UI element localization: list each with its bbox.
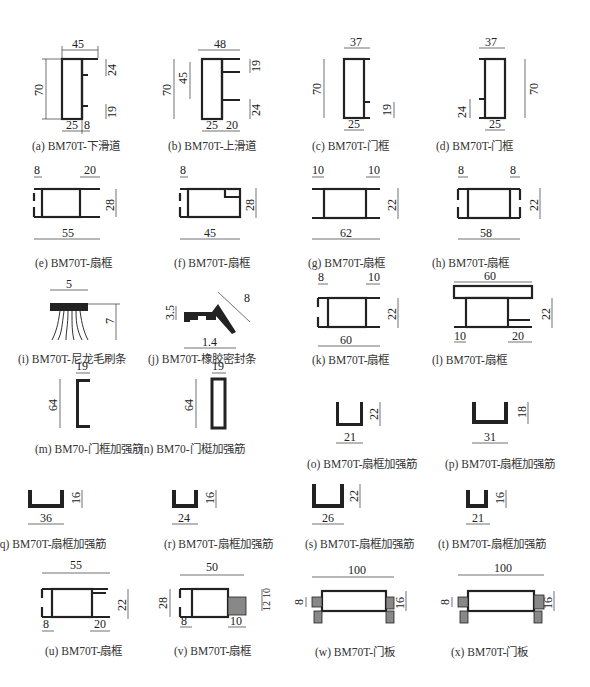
profile-e-drawing: 8 20 28 55 [0, 155, 150, 265]
profile-a-drawing: 45 70 24 19 258 [0, 0, 150, 160]
caption-b: (b) BM70T-上滑道 [168, 137, 256, 153]
caption-t: (t) BM70T-扇框加强筋 [438, 535, 546, 551]
profile-m-drawing: 19 64 [0, 365, 150, 475]
profile-d-drawing: 37 70 24 25 [440, 0, 590, 160]
svg-text:55: 55 [70, 558, 82, 572]
svg-text:20: 20 [512, 329, 524, 343]
profile-g-drawing: 10 10 22 62 [290, 155, 440, 265]
svg-text:25: 25 [348, 117, 360, 131]
svg-text:8: 8 [244, 291, 250, 305]
caption-w: (w) BM70T-门板 [315, 643, 395, 659]
svg-text:100: 100 [494, 561, 512, 575]
caption-x: (x) BM70T-门板 [451, 643, 528, 659]
svg-text:19: 19 [380, 104, 394, 116]
caption-a: (a) BM70T-下滑道 [32, 137, 120, 153]
svg-text:22: 22 [347, 490, 361, 502]
svg-text:12: 12 [261, 601, 272, 611]
svg-text:70: 70 [527, 83, 541, 95]
svg-text:8: 8 [43, 617, 49, 631]
figure-d: 37 70 24 25 (d) BM70T-门框 [440, 0, 590, 160]
svg-text:8: 8 [181, 614, 187, 628]
caption-v: (v) BM70T-扇框 [174, 642, 251, 658]
figure-a: 45 70 24 19 258 (a) BM70T-下滑道 [0, 0, 150, 160]
svg-text:70: 70 [32, 84, 46, 96]
caption-e: (e) BM70T-扇框 [35, 254, 112, 270]
svg-text:8: 8 [84, 118, 90, 132]
svg-text:60: 60 [484, 269, 496, 283]
figure-e: 8 20 28 55 (e) BM70T-扇框 [0, 155, 150, 265]
svg-text:45: 45 [204, 226, 216, 240]
caption-i: (i) BM70T-尼龙毛刷条 [18, 350, 126, 366]
figure-g: 10 10 22 62 (g) BM70T-扇框 [290, 155, 440, 265]
svg-text:16: 16 [203, 492, 217, 504]
svg-text:10: 10 [368, 270, 380, 284]
svg-text:70: 70 [310, 83, 324, 95]
svg-text:8: 8 [510, 163, 516, 177]
svg-text:1.4: 1.4 [202, 335, 217, 349]
svg-text:25: 25 [66, 118, 78, 132]
figure-i: 5 7 (i) BM70T-尼龙毛刷条 [0, 270, 150, 370]
profile-v-drawing: 50 28 10 12 8 10 [150, 565, 300, 687]
figure-w: 100 8 16 (w) BM70T-门板 [290, 565, 440, 687]
svg-text:28: 28 [156, 597, 170, 609]
svg-text:31: 31 [484, 430, 496, 444]
caption-r: (r) BM70T-扇框加强筋 [164, 535, 273, 551]
svg-text:19: 19 [76, 359, 88, 373]
svg-text:24: 24 [455, 106, 469, 118]
svg-text:36: 36 [40, 511, 52, 525]
figure-v: 50 28 10 12 8 10 (v) BM70T-扇框 [150, 565, 300, 687]
svg-text:60: 60 [340, 333, 352, 347]
figure-k: 8 10 22 60 (k) BM70T-扇框 [290, 270, 440, 370]
svg-text:8: 8 [34, 163, 40, 177]
svg-text:22: 22 [385, 199, 399, 211]
caption-n: (n) BM70-门梃加强筋 [140, 440, 245, 456]
caption-s: (s) BM70T-扇框加强筋 [305, 535, 414, 551]
svg-text:20: 20 [226, 118, 238, 132]
svg-text:100: 100 [348, 563, 366, 577]
figure-o: 22 21 (o) BM70T-扇框加强筋 [290, 380, 440, 480]
caption-p: (p) BM70T-扇框加强筋 [445, 455, 555, 471]
svg-text:37: 37 [485, 35, 497, 49]
svg-text:37: 37 [350, 35, 362, 49]
caption-h: (h) BM70T-扇框 [432, 254, 509, 270]
svg-text:45: 45 [176, 72, 190, 84]
caption-u: (u) BM70T-扇框 [45, 642, 122, 658]
svg-text:8: 8 [292, 599, 306, 605]
svg-text:22: 22 [115, 599, 129, 611]
svg-text:21: 21 [472, 511, 484, 525]
figure-h: 8 8 22 58 (h) BM70T-扇框 [440, 155, 590, 265]
caption-q: (q) BM70T-扇框加强筋 [0, 535, 106, 551]
svg-text:21: 21 [344, 430, 356, 444]
figure-p: 18 31 (p) BM70T-扇框加强筋 [440, 380, 590, 480]
profile-b-drawing: 48 70 45 19 24 2520 [150, 0, 300, 160]
svg-text:70: 70 [160, 84, 174, 96]
profile-x-drawing: 100 8 16 [440, 565, 590, 687]
svg-text:20: 20 [84, 163, 96, 177]
svg-text:16: 16 [493, 492, 507, 504]
svg-text:22: 22 [367, 408, 381, 420]
svg-text:3.5: 3.5 [163, 305, 177, 320]
figure-b: 48 70 45 19 24 2520 (b) BM70T-上滑道 [150, 0, 300, 160]
caption-m: (m) BM70-门框加强筋 [35, 440, 143, 456]
profile-f-drawing: 8 28 45 [150, 155, 300, 265]
svg-text:48: 48 [214, 37, 226, 51]
profile-n-drawing: 19 64 [150, 365, 300, 475]
svg-text:58: 58 [480, 226, 492, 240]
svg-text:10: 10 [454, 329, 466, 343]
profile-u-drawing: 55 22 8 20 [0, 565, 150, 687]
svg-text:25: 25 [489, 117, 501, 131]
svg-text:55: 55 [62, 226, 74, 240]
svg-text:24: 24 [249, 104, 263, 116]
figure-j: 3.5 8 1.4 (j) BM70T-橡胶密封条 [150, 270, 300, 370]
caption-k: (k) BM70T-扇框 [312, 351, 389, 367]
svg-text:8: 8 [318, 270, 324, 284]
svg-text:22: 22 [527, 199, 541, 211]
svg-text:28: 28 [103, 199, 117, 211]
figure-f: 8 28 45 (f) BM70T-扇框 [150, 155, 300, 265]
figure-c: 37 70 19 25 (c) BM70T-门框 [290, 0, 440, 160]
figure-l: 60 22 10 20 (l) BM70T-扇框 [440, 270, 590, 370]
svg-text:24: 24 [105, 64, 119, 76]
figure-u: 55 22 8 20 (u) BM70T-扇框 [0, 565, 150, 687]
profile-c-drawing: 37 70 19 25 [290, 0, 440, 160]
svg-text:18: 18 [515, 406, 529, 418]
